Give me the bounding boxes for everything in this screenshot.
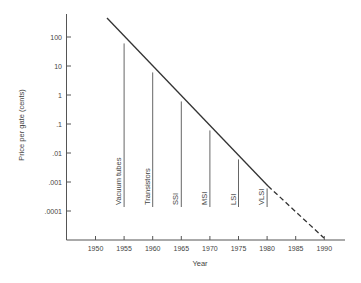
y-tick-label: 100	[50, 34, 62, 41]
y-tick-label: .001	[48, 179, 62, 186]
y-ticks: 100101.1.01.001.0001	[44, 34, 71, 215]
technology-label: SSI	[171, 193, 180, 205]
technology-bars: Vacuum tubesTransistorsSSIMSILSIVLSI	[114, 43, 267, 207]
technology-label: Vacuum tubes	[114, 157, 123, 205]
trend-line-dashed	[268, 186, 324, 238]
x-axis-title: Year	[192, 259, 208, 268]
x-tick-label: 1985	[288, 245, 304, 252]
technology-label: Transistors	[143, 168, 152, 205]
y-tick-label: 1	[58, 92, 62, 99]
x-tick-label: 1955	[116, 245, 132, 252]
technology-label: LSI	[229, 194, 238, 205]
x-tick-label: 1975	[231, 245, 247, 252]
y-tick-label: .01	[52, 150, 62, 157]
x-tick-label: 1965	[174, 245, 190, 252]
x-tick-label: 1980	[259, 245, 275, 252]
trend-line-solid	[107, 18, 268, 186]
technology-label: MSI	[200, 192, 209, 205]
technology-label: VLSI	[257, 189, 266, 205]
x-ticks: 195019551960196519701975198019851990	[88, 236, 332, 252]
y-tick-label: .1	[56, 121, 62, 128]
axes	[67, 14, 346, 240]
trend-line	[107, 18, 324, 238]
y-tick-label: 10	[54, 63, 62, 70]
x-tick-label: 1990	[317, 245, 333, 252]
y-tick-label: .0001	[44, 208, 62, 215]
x-tick-label: 1950	[88, 245, 104, 252]
y-axis-title: Price per gate (cents)	[17, 89, 26, 161]
price-per-gate-chart: 100101.1.01.001.0001 1950195519601965197…	[0, 0, 361, 283]
x-tick-label: 1970	[202, 245, 218, 252]
x-tick-label: 1960	[145, 245, 161, 252]
